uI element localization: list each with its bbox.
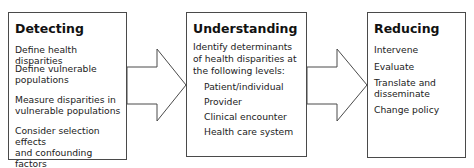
stage-item: Intervene	[374, 44, 418, 55]
stage-item: Consider selection effects and confoundi…	[15, 125, 126, 168]
arrow-detecting-to-understanding	[127, 49, 186, 121]
stage-box-detecting: Detecting Define health disparities Defi…	[8, 12, 127, 160]
stage-subitem: Patient/individual	[204, 81, 284, 92]
arrow-understanding-to-reducing	[307, 49, 367, 121]
stage-item: Change policy	[374, 104, 439, 115]
stage-intro: Identify determinants of health disparit…	[193, 41, 297, 77]
stage-item: Define vulnerable populations	[15, 63, 97, 85]
stage-box-reducing: Reducing Intervene Evaluate Translate an…	[367, 12, 466, 158]
stage-item: Translate and disseminate	[374, 77, 436, 99]
stage-item: Evaluate	[374, 61, 414, 72]
stage-subitem: Clinical encounter	[204, 111, 287, 122]
stage-box-understanding: Understanding Identify determinants of h…	[186, 12, 307, 157]
stage-title-detecting: Detecting	[15, 22, 84, 36]
stage-title-understanding: Understanding	[193, 22, 297, 36]
stage-item: Measure disparities in vulnerable popula…	[15, 94, 120, 116]
stage-subitem: Health care system	[204, 126, 293, 137]
stage-title-reducing: Reducing	[374, 22, 440, 36]
stage-subitem: Provider	[204, 96, 242, 107]
